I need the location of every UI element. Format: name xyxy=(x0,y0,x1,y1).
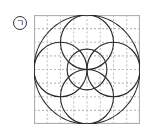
figure-label: ㄱ xyxy=(13,16,27,30)
circles xyxy=(34,15,140,124)
circle-pattern-figure xyxy=(34,15,140,124)
